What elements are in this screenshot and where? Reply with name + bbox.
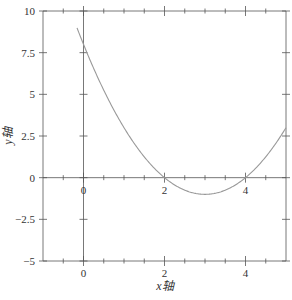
parabola-line: [77, 28, 286, 194]
x-tick-label-center: 0: [81, 184, 87, 196]
parabola-plot: 002244−5−2.502.557.510 x轴 y轴: [0, 0, 292, 300]
y-tick-label: 10: [24, 5, 36, 17]
x-tick-label: 2: [162, 267, 168, 279]
x-tick-label-center: 2: [162, 184, 168, 196]
y-tick-label: 0: [30, 172, 36, 184]
axis-ticks: [39, 6, 290, 266]
x-tick-label-center: 4: [243, 184, 249, 196]
x-tick-label: 0: [81, 267, 87, 279]
plot-frame: [43, 11, 286, 261]
y-axis-label: y轴: [1, 125, 15, 145]
tick-labels: 002244−5−2.502.557.510: [15, 5, 249, 279]
y-tick-label: 7.5: [21, 47, 35, 59]
y-tick-label: 2.5: [21, 130, 35, 142]
x-axis-label: x轴: [155, 279, 175, 293]
y-tick-label: −2.5: [15, 213, 35, 225]
x-tick-label: 4: [243, 267, 249, 279]
data-curve: [77, 28, 286, 194]
y-tick-label: −5: [23, 255, 35, 267]
chart-container: 002244−5−2.502.557.510 x轴 y轴: [0, 0, 292, 300]
y-tick-label: 5: [30, 88, 36, 100]
